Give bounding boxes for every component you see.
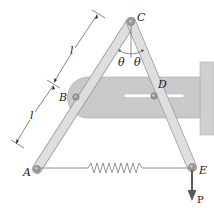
pin-b	[73, 94, 79, 100]
pin-e	[189, 164, 196, 171]
wall	[200, 62, 214, 135]
label-theta-left: θ	[118, 56, 125, 69]
spring	[40, 163, 189, 173]
mechanism-diagram: l l C B D A E P θ θ	[0, 0, 214, 208]
label-theta-right: θ	[134, 56, 141, 69]
force-arrow-p	[188, 170, 197, 201]
label-d: D	[157, 78, 167, 91]
label-length-upper: l	[70, 44, 74, 57]
pin-a	[34, 166, 41, 173]
label-b: B	[58, 91, 67, 104]
label-p: P	[197, 194, 204, 205]
pin-c	[127, 18, 134, 25]
label-e: E	[198, 164, 207, 177]
label-c: C	[137, 11, 146, 24]
label-length-lower: l	[30, 109, 34, 122]
label-a: A	[22, 166, 31, 179]
pin-d	[151, 93, 157, 99]
